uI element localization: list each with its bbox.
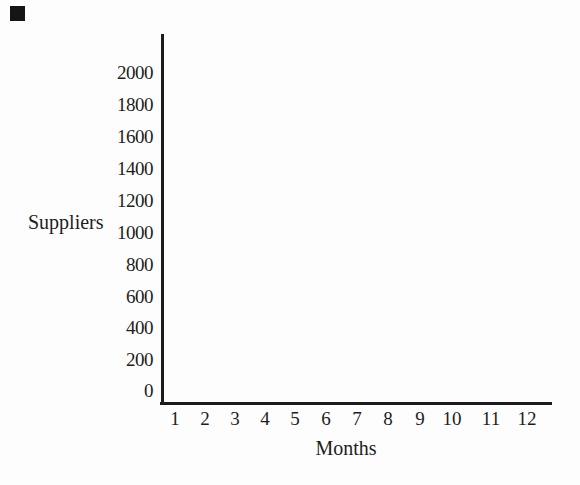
x-tick-label: 11 <box>471 408 511 429</box>
y-tick-label: 2000 <box>91 62 153 83</box>
y-tick-label: 1000 <box>91 222 153 243</box>
y-tick-label: 600 <box>91 286 153 307</box>
y-tick-label: 1400 <box>91 158 153 179</box>
y-tick-label: 0 <box>91 380 153 401</box>
y-tick-label: 1800 <box>91 94 153 115</box>
y-tick-label: 200 <box>91 349 153 370</box>
y-tick-label: 800 <box>91 254 153 275</box>
x-axis-title: Months <box>306 437 386 459</box>
x-tick-label: 10 <box>432 408 472 429</box>
x-axis-line <box>160 402 552 405</box>
y-tick-label: 400 <box>91 317 153 338</box>
y-tick-label: 1200 <box>91 190 153 211</box>
corner-mark-square <box>10 6 25 21</box>
y-axis-line <box>161 34 164 405</box>
chart-figure: Suppliers Months 2000 1800 1600 1400 120… <box>0 0 580 485</box>
y-tick-label: 1600 <box>91 126 153 147</box>
x-tick-label: 12 <box>507 408 547 429</box>
